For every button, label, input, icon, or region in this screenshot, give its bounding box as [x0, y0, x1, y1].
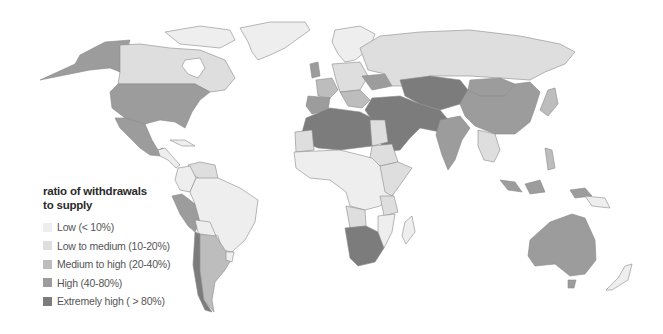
region-mexico — [115, 118, 163, 156]
region-tanzania — [380, 196, 398, 216]
legend-item-extreme: Extremely high ( > 80%) — [43, 292, 213, 311]
region-new-zealand — [606, 264, 632, 290]
legend-item-medium-high: Medium to high (20-40%) — [43, 255, 213, 274]
region-egypt — [370, 120, 388, 146]
region-east-africa — [380, 162, 412, 196]
region-india — [436, 116, 470, 170]
region-france — [316, 78, 338, 98]
legend-item-high: High (40-80%) — [43, 274, 213, 293]
legend-list: Low (< 10%) Low to medium (10-20%) Mediu… — [43, 218, 213, 311]
legend-title-line2: to supply — [43, 198, 213, 212]
legend-label: Extremely high ( > 80%) — [57, 295, 165, 307]
region-angola — [346, 206, 366, 228]
region-mauritania — [295, 130, 314, 152]
legend-swatch-high — [43, 278, 52, 287]
region-russia — [360, 30, 575, 86]
legend-label: Low to medium (10-20%) — [57, 240, 170, 252]
region-italy-balkans — [340, 90, 370, 108]
region-uk — [310, 62, 320, 78]
region-philippines — [545, 148, 555, 170]
map-legend: ratio of withdrawals to supply Low (< 10… — [43, 184, 213, 311]
legend-swatch-low-medium — [43, 241, 52, 250]
legend-item-low-medium: Low to medium (10-20%) — [43, 237, 213, 256]
legend-swatch-medium-high — [43, 260, 52, 269]
legend-label: Low (< 10%) — [57, 221, 114, 233]
region-tasmania — [568, 280, 576, 288]
legend-item-low: Low (< 10%) — [43, 218, 213, 237]
region-greenland — [240, 22, 310, 60]
region-alaska — [40, 40, 130, 80]
legend-label: High (40-80%) — [57, 277, 122, 289]
region-uruguay — [226, 252, 234, 262]
legend-swatch-low — [43, 223, 52, 232]
region-papua-new-guinea — [585, 196, 610, 208]
region-cuba — [170, 140, 195, 146]
legend-label: Medium to high (20-40%) — [57, 258, 170, 270]
legend-swatch-extreme — [43, 297, 52, 306]
region-central-america — [158, 148, 180, 168]
legend-title-line1: ratio of withdrawals — [43, 184, 213, 198]
region-arctic-canada — [165, 26, 235, 48]
region-australia — [528, 214, 596, 276]
region-indonesia — [500, 180, 592, 198]
region-southeast-asia — [478, 130, 500, 162]
region-japan — [540, 88, 558, 116]
region-madagascar — [402, 216, 415, 244]
